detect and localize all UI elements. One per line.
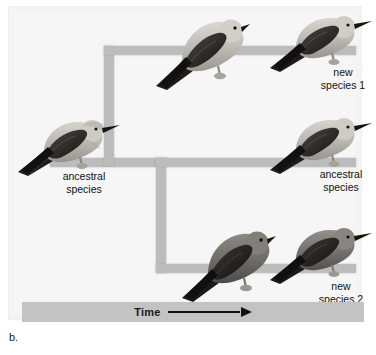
- node-label-line1: new: [331, 280, 350, 292]
- node-label-ancestral-left: ancestral species: [40, 170, 128, 195]
- branch-riser-down: [156, 158, 166, 273]
- node-label-line1: ancestral: [63, 170, 106, 182]
- time-axis-label: Time: [134, 306, 160, 318]
- node-label-ancestral-right: ancestral species: [296, 168, 376, 193]
- node-ancestral-species-left: ancestral species: [14, 114, 126, 210]
- time-axis-inner: Time: [134, 306, 251, 318]
- node-label-new-species-1: new species 1: [304, 66, 376, 91]
- time-axis-bar: Time: [22, 302, 364, 322]
- arrow-head: [241, 307, 252, 317]
- node-label-line1: new: [333, 66, 352, 78]
- node-label-line2: species 1: [321, 79, 365, 91]
- arrow-right-icon: [168, 307, 252, 317]
- node-ancestral-species-right: ancestral species: [266, 112, 376, 210]
- bird-icon-branchpoint-bottom: [180, 224, 276, 304]
- bird-icon-new-species-1: [266, 10, 376, 72]
- bird-icon-new-species-2: [266, 222, 376, 284]
- diagram-canvas: ancestral species: [8, 6, 362, 320]
- arrow-shaft: [168, 311, 240, 313]
- bird-icon-ancestral-left: [14, 114, 126, 176]
- node-label-line2: species: [323, 181, 359, 193]
- node-label-line2: species: [66, 183, 102, 195]
- figure-caption: b.: [9, 331, 18, 343]
- node-branchpoint-bottom: [180, 224, 276, 312]
- node-label-line1: ancestral: [320, 168, 363, 180]
- node-branchpoint-top: [154, 12, 250, 94]
- bird-icon-ancestral-right: [266, 112, 376, 174]
- bird-icon-branchpoint-top: [154, 12, 250, 92]
- node-new-species-1: new species 1: [266, 10, 376, 110]
